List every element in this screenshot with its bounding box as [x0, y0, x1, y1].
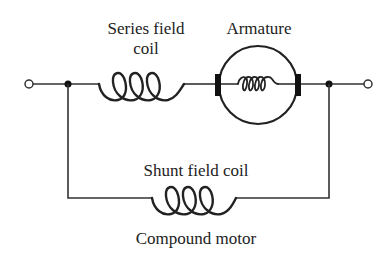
diagram-caption: Compound motor — [136, 229, 257, 248]
series-field-coil-icon — [99, 73, 184, 100]
armature-brush-right — [295, 74, 301, 96]
armature-coil-icon — [238, 77, 278, 90]
wire-shunt-left — [68, 84, 152, 198]
compound-motor-diagram: Series field coil Armature Shunt field c… — [0, 0, 392, 254]
right-terminal-icon — [364, 80, 372, 88]
series-field-label-line1: Series field — [108, 19, 185, 38]
series-field-label-line2: coil — [133, 39, 159, 58]
armature-brush-left — [215, 74, 221, 96]
shunt-field-coil-icon — [152, 187, 236, 214]
armature-label: Armature — [226, 19, 291, 38]
armature-circle-icon — [219, 46, 297, 124]
shunt-field-label: Shunt field coil — [144, 161, 249, 180]
left-terminal-icon — [25, 80, 33, 88]
wire-shunt-right — [236, 84, 329, 198]
